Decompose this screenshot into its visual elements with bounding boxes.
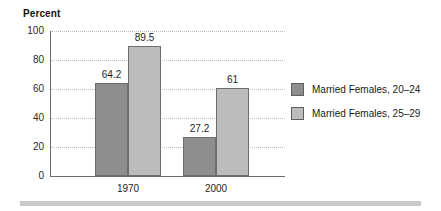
- bar-value-label: 61: [210, 74, 255, 85]
- y-axis-line: [50, 31, 51, 176]
- bar: [183, 137, 216, 176]
- y-axis-tick-labels: 100806040200: [16, 31, 44, 176]
- bar-value-label: 89.5: [122, 32, 167, 43]
- legend-item: Married Females, 25–29: [291, 103, 436, 124]
- gridline: [51, 31, 285, 32]
- bar: [95, 83, 128, 176]
- y-axis-tick-label: 0: [18, 171, 44, 181]
- y-axis-title: Percent: [23, 8, 60, 19]
- y-axis-tick-label: 100: [18, 26, 44, 36]
- gridline: [51, 118, 285, 119]
- y-axis-tick-label: 20: [18, 142, 44, 152]
- legend-label: Married Females, 20–24: [312, 84, 420, 95]
- gridline: [51, 147, 285, 148]
- x-axis-tick-label: 2000: [186, 183, 246, 194]
- x-axis-tick-label: 1970: [98, 183, 158, 194]
- legend-item: Married Females, 20–24: [291, 79, 436, 100]
- y-axis-tick-label: 60: [18, 84, 44, 94]
- chart-legend: Married Females, 20–24Married Females, 2…: [291, 79, 436, 127]
- y-axis-tick-label: 40: [18, 113, 44, 123]
- bar: [128, 46, 161, 176]
- bar: [216, 88, 249, 176]
- plot-area: 64.289.527.261 19702000: [50, 31, 285, 176]
- footer-rule: [20, 201, 421, 206]
- legend-label: Married Females, 25–29: [312, 108, 420, 119]
- legend-swatch: [291, 83, 304, 96]
- x-axis-line: [50, 176, 285, 177]
- bar-chart-figure: Percent 100806040200 64.289.527.261 1970…: [0, 0, 441, 211]
- gridline: [51, 60, 285, 61]
- gridline: [51, 89, 285, 90]
- legend-swatch: [291, 107, 304, 120]
- y-axis-tick-label: 80: [18, 55, 44, 65]
